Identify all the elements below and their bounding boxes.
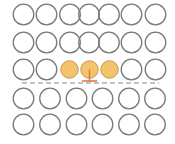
circle [145,114,166,135]
circle [119,88,140,109]
circle [36,4,57,25]
circle [119,114,140,135]
row-1 [13,4,166,25]
circle [121,32,142,53]
circle [145,4,166,25]
circle [99,4,120,25]
circle [66,88,87,109]
circle [36,32,57,53]
highlighted-circle [61,61,78,78]
circle [145,32,166,53]
row-4 [13,88,165,109]
circle [79,32,100,53]
circle [40,88,61,109]
circle [121,4,142,25]
circle [13,4,34,25]
circle [13,59,34,80]
circle [66,114,87,135]
circle [13,114,34,135]
circle [145,59,166,80]
circle [40,114,61,135]
circle [36,59,57,80]
particle-diagram [0,0,175,144]
circle [60,4,81,25]
highlighted-circle [101,61,118,78]
circle [92,88,113,109]
circle [92,114,113,135]
circle [60,32,81,53]
diagram-canvas [0,0,175,144]
row-5 [13,114,165,135]
circle [121,59,142,80]
circle [13,32,34,53]
circle [145,88,166,109]
circle [13,88,34,109]
row-2 [13,32,166,53]
circle [99,32,120,53]
circle [79,4,100,25]
